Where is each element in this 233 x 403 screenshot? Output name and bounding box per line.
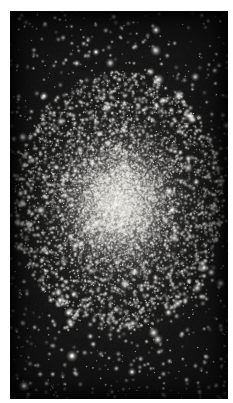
starfield: [10, 11, 228, 399]
image-canvas: Dense spherical swarm of stars concentra…: [0, 0, 233, 403]
photographic-plate: [10, 11, 228, 399]
star-layer-canvas: [10, 11, 228, 399]
